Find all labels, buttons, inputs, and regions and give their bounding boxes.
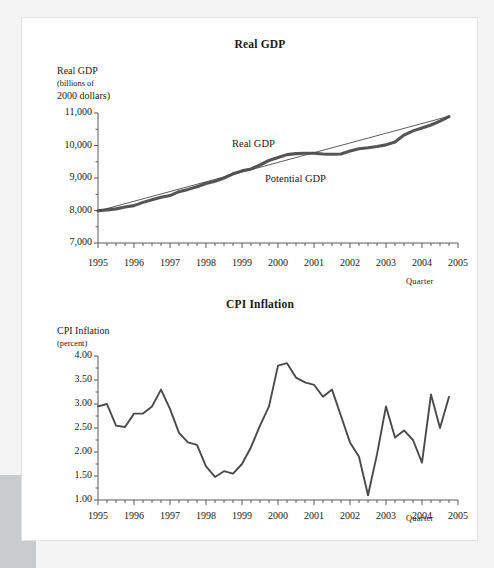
x-tick-label: 2005 <box>436 257 480 268</box>
charts-svg-layer <box>0 0 494 568</box>
y-tick-label: 2.50 <box>20 421 92 432</box>
x-tick-label: 2005 <box>436 510 480 521</box>
chart-real-gdp <box>94 113 458 248</box>
series-line-cpi-inflation <box>98 363 449 495</box>
y-tick-label: 1.00 <box>20 493 92 504</box>
y-tick-label: 10,000 <box>20 139 92 150</box>
y-tick-label: 3.50 <box>20 373 92 384</box>
y-tick-label: 11,000 <box>20 106 92 117</box>
series-line-potential-gdp <box>98 116 449 211</box>
y-tick-label: 7,000 <box>20 236 92 247</box>
y-tick-label: 3.00 <box>20 397 92 408</box>
y-tick-label: 8,000 <box>20 204 92 215</box>
y-tick-label: 2.00 <box>20 445 92 456</box>
y-tick-label: 4.00 <box>20 349 92 360</box>
y-tick-label: 9,000 <box>20 171 92 182</box>
y-tick-label: 1.50 <box>20 469 92 480</box>
chart-cpi-inflation <box>94 356 458 505</box>
